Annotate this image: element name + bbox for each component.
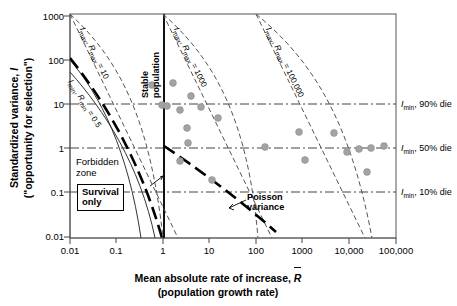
data-point	[344, 149, 351, 156]
survival-only-line2: only	[82, 197, 119, 207]
data-point	[185, 140, 192, 147]
figure-root: Standardized variance, I ("opportunity f…	[0, 0, 457, 306]
data-point	[164, 103, 171, 110]
plot-canvas	[0, 0, 457, 306]
poisson-variance-label: Poisson variance	[247, 192, 284, 213]
poisson-variance-line2: variance	[247, 202, 284, 212]
poisson-variance-line1: Poisson	[247, 192, 284, 202]
data-point	[262, 144, 269, 151]
data-point	[188, 93, 195, 100]
forbidden-zone-label: Forbidden zone	[76, 157, 119, 178]
data-point	[170, 80, 177, 87]
x-tick-marks	[70, 238, 396, 244]
data-point	[184, 125, 191, 132]
survival-only-box: Survival only	[77, 184, 124, 211]
imin-10-die-label: Imin, 10% die	[401, 187, 452, 199]
data-point	[381, 143, 388, 150]
stable-population-label: Stable	[141, 18, 150, 98]
data-point	[364, 169, 371, 176]
data-point	[331, 130, 338, 137]
data-point	[198, 104, 205, 111]
stable-population-label2: population	[152, 18, 161, 98]
data-point	[177, 107, 184, 114]
data-point	[302, 157, 309, 164]
data-points	[149, 80, 388, 184]
survival-only-leader	[150, 176, 163, 186]
y-tick-marks	[64, 16, 70, 237]
data-point	[177, 158, 184, 165]
forbidden-zone-line2: zone	[76, 168, 119, 179]
data-point	[209, 177, 216, 184]
imin-50-die-label: Imin, 50% die	[401, 143, 452, 155]
data-point	[215, 115, 222, 122]
data-point	[296, 129, 303, 136]
data-point	[368, 145, 375, 152]
data-point	[356, 146, 363, 153]
imin-90-die-label: Imin, 90% die	[401, 99, 452, 111]
